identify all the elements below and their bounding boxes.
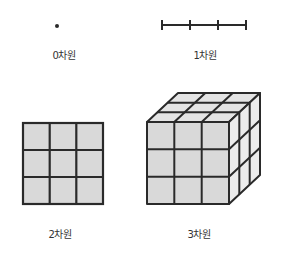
label-3d: 3차원 xyxy=(169,226,229,241)
label-0d: 0차원 xyxy=(34,47,94,62)
label-2d: 2차원 xyxy=(30,226,90,241)
line-1d xyxy=(162,20,246,30)
square-2d xyxy=(23,123,103,204)
label-1d: 1차원 xyxy=(175,47,235,62)
point-0d xyxy=(55,24,59,28)
cube-3d xyxy=(147,93,260,204)
dimensions-diagram xyxy=(0,0,282,255)
